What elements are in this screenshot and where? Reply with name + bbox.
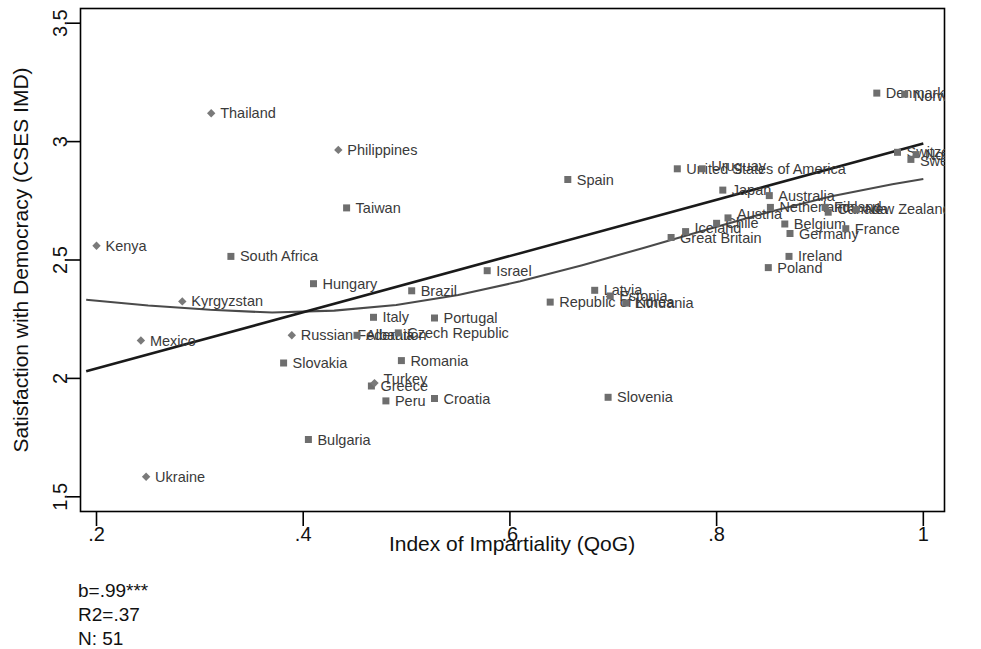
marker-square	[398, 357, 405, 364]
data-point-label: Turkey	[384, 371, 429, 387]
marker-square	[564, 176, 571, 183]
data-point: Italy	[370, 309, 410, 325]
marker-square	[484, 267, 491, 274]
data-point-label: Hungary	[323, 276, 379, 292]
data-point-label: Mexico	[150, 333, 196, 349]
data-point-label: Taiwan	[356, 200, 401, 216]
data-point-label: South Africa	[240, 248, 319, 264]
data-point: Portugal	[431, 310, 498, 326]
data-point: Kyrgyzstan	[178, 293, 263, 309]
marker-square	[547, 299, 554, 306]
x-tick-label: .2	[88, 523, 105, 545]
marker-square	[766, 192, 773, 199]
data-point: Philippines	[334, 142, 417, 158]
data-point-label: Ireland	[798, 248, 842, 264]
data-point-label: Spain	[577, 172, 614, 188]
data-point: Turkey	[370, 371, 428, 387]
marker-square	[305, 436, 312, 443]
data-point-label: Norway	[914, 88, 964, 104]
data-point: Taiwan	[343, 200, 401, 216]
stat-n: N: 51	[78, 628, 123, 649]
marker-square	[853, 206, 860, 213]
data-point: Brazil	[408, 283, 457, 299]
y-tick-label: 2.5	[49, 246, 71, 274]
y-axis-title: Satisfaction with Democracy (CSES IMD)	[9, 67, 32, 452]
data-point: South Africa	[227, 248, 319, 264]
y-tick-label: 3.5	[49, 9, 71, 37]
marker-square	[825, 209, 832, 216]
data-point-label: Romania	[410, 353, 469, 369]
marker-square	[719, 187, 726, 194]
data-point-label: Brazil	[421, 283, 457, 299]
x-tick-label: .8	[708, 523, 725, 545]
marker-square	[382, 397, 389, 404]
marker-square	[622, 300, 629, 307]
marker-square	[607, 293, 614, 300]
marker-square	[894, 149, 901, 156]
marker-square	[842, 225, 849, 232]
marker-square	[395, 329, 402, 336]
data-point-label: France	[855, 221, 900, 237]
marker-square	[781, 221, 788, 228]
x-tick-label: 1	[918, 523, 929, 545]
data-point: Israel	[484, 263, 532, 279]
data-point-label: Slovakia	[293, 355, 349, 371]
data-point-label: Italy	[383, 309, 410, 325]
marker-square	[682, 228, 689, 235]
data-point: Kenya	[92, 238, 147, 254]
data-point: Spain	[564, 172, 614, 188]
data-point-label: Germany	[799, 226, 859, 242]
data-point: Slovenia	[605, 389, 674, 405]
marker-diamond	[334, 146, 342, 154]
data-point-label: Bulgaria	[317, 432, 371, 448]
marker-square	[431, 395, 438, 402]
data-point: Hungary	[310, 276, 378, 292]
data-point-label: Kyrgyzstan	[191, 293, 263, 309]
marker-square	[343, 204, 350, 211]
data-point-label: New Zealand	[865, 201, 950, 217]
stat-coefficient: b=.99***	[78, 580, 149, 601]
marker-square	[354, 332, 361, 339]
stat-r-squared: R2=.37	[78, 604, 140, 625]
data-point: Ukraine	[142, 469, 205, 485]
marker-square	[280, 360, 287, 367]
data-point-label: Japan	[732, 182, 772, 198]
data-point: Czech Republic	[395, 325, 509, 341]
data-point: Romania	[398, 353, 469, 369]
marker-diamond	[178, 297, 186, 305]
marker-diamond	[137, 336, 145, 344]
data-points-layer: KenyaUkraineMexicoKyrgyzstanSouth Africa…	[92, 85, 981, 485]
data-point: Bulgaria	[305, 432, 372, 448]
data-point: Mexico	[137, 333, 196, 349]
marker-square	[786, 253, 793, 260]
data-point: Slovakia	[280, 355, 348, 371]
marker-diamond	[92, 242, 100, 250]
data-point-label: Austria	[737, 206, 783, 222]
data-point-label: Portugal	[444, 310, 498, 326]
marker-square	[591, 287, 598, 294]
marker-square	[787, 230, 794, 237]
marker-square	[408, 287, 415, 294]
marker-diamond	[207, 109, 215, 117]
marker-square	[873, 90, 880, 97]
marker-diamond	[142, 473, 150, 481]
marker-square	[901, 91, 908, 98]
marker-square	[668, 234, 675, 241]
marker-square	[605, 394, 612, 401]
marker-square	[431, 315, 438, 322]
data-point-label: Slovenia	[617, 389, 674, 405]
data-point: Peru	[382, 393, 425, 409]
marker-diamond	[288, 331, 296, 339]
marker-square	[765, 264, 772, 271]
x-tick-label: .4	[295, 523, 312, 545]
marker-square	[674, 165, 681, 172]
data-point: Thailand	[207, 105, 276, 121]
marker-square	[370, 314, 377, 321]
data-point-label: Croatia	[444, 391, 492, 407]
y-tick-label: 1.5	[49, 483, 71, 511]
marker-square	[227, 253, 234, 260]
data-point-label: Norway	[925, 147, 975, 163]
marker-square	[767, 204, 774, 211]
marker-square	[913, 151, 920, 158]
data-point-label: Ukraine	[155, 469, 205, 485]
